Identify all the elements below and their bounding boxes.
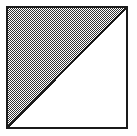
figure-canvas: Square outline divided by a diagonal fro…	[0, 0, 137, 136]
shaded-half-square-figure	[0, 0, 137, 136]
